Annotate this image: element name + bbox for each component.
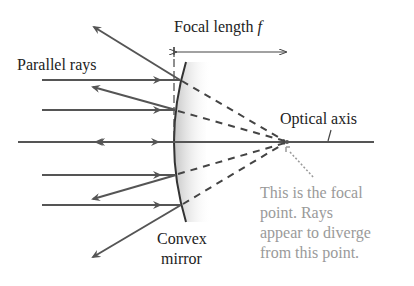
focal-point <box>285 140 289 144</box>
reflected-ray-1 <box>94 27 180 80</box>
parallel-rays-label: Parallel rays <box>17 56 97 74</box>
reflected-ray-4 <box>93 175 176 199</box>
focal-note-line3: appear to diverge <box>260 224 371 242</box>
focal-note-line2: point. Rays <box>260 204 333 222</box>
focal-note-line4: from this point. <box>260 244 359 262</box>
reflected-ray-2 <box>93 87 176 110</box>
focal-length-label: Focal length f <box>174 18 265 36</box>
convex-mirror-diagram: Focal length f Parallel rays Optical axi… <box>0 0 414 286</box>
optical-axis-pointer <box>328 130 331 141</box>
focal-point-tag <box>286 147 290 152</box>
mirror-label-line2: mirror <box>161 250 203 267</box>
focal-note-line1: This is the focal <box>260 184 363 201</box>
optical-axis-label: Optical axis <box>280 110 357 128</box>
mirror-label-line1: Convex <box>157 230 207 247</box>
focal-note-leader <box>290 152 314 178</box>
